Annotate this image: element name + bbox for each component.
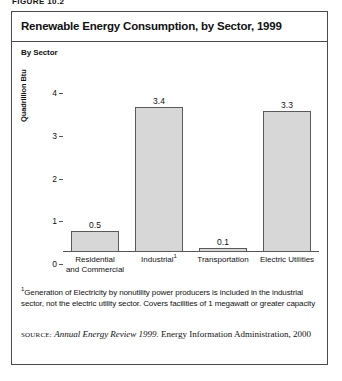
source-note: source: Annual Energy Review 1999. Energ…	[21, 329, 317, 342]
plot-area: Quadrillion Btu 01234 0.5Residentialand …	[21, 64, 319, 264]
y-axis-tick-label: 2	[35, 174, 57, 184]
x-axis-category-label: Electric Utilities	[251, 255, 323, 265]
x-axis-category-label: Transportation	[187, 255, 259, 265]
bar	[199, 248, 248, 252]
y-axis-title: Quadrillion Btu	[19, 32, 28, 122]
footnote: 1Generation of Electricity by nonutility…	[21, 288, 317, 309]
bar-group: 0.5Residentialand Commercial	[63, 64, 127, 252]
bar-series: 0.5Residentialand Commercial3.4Industria…	[63, 64, 319, 252]
y-axis-tick-label: 4	[35, 88, 57, 98]
bar	[263, 111, 312, 252]
bar-value-label: 0.1	[191, 237, 255, 247]
bar-value-label: 3.4	[127, 96, 191, 106]
y-axis-tick-label: 3	[35, 131, 57, 141]
bar-group: 3.3Electric Utilities	[255, 64, 319, 252]
bar	[135, 107, 184, 252]
category-footnote-marker: 1	[174, 253, 177, 259]
bar-group: 0.1Transportation	[191, 64, 255, 252]
bar-value-label: 3.3	[255, 100, 319, 110]
x-axis-category-label: Industrial1	[123, 255, 195, 265]
bar-value-label: 0.5	[63, 220, 127, 230]
source-label: source:	[21, 331, 52, 339]
source-title: Annual Energy Review 1999.	[54, 329, 159, 339]
figure-frame: Renewable Energy Consumption, by Sector,…	[11, 11, 328, 365]
bar	[71, 231, 120, 252]
footnote-text: Generation of Electricity by nonutility …	[21, 288, 315, 308]
y-axis-tick-label: 1	[35, 216, 57, 226]
x-axis-category-label: Residentialand Commercial	[59, 255, 131, 274]
chart-title: Renewable Energy Consumption, by Sector,…	[21, 20, 282, 32]
title-divider	[12, 41, 327, 42]
source-rest: Energy Information Administration, 2000	[159, 329, 311, 339]
y-axis-tick-label: 0	[35, 259, 57, 269]
figure-caption: FIGURE 10.2	[12, 0, 64, 5]
bar-group: 3.4Industrial1	[127, 64, 191, 252]
